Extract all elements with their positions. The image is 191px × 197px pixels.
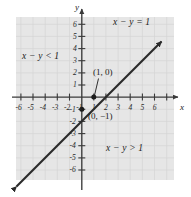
region-label-greater-than: x − y > 1 — [106, 144, 143, 154]
x-tick-label: -6 — [16, 104, 22, 112]
point-1-0 — [91, 95, 96, 100]
y-axis-label: y — [75, 3, 79, 12]
x-tick-label: 5 — [141, 104, 145, 112]
y-tick-label: 4 — [73, 45, 77, 53]
y-tick-label: 3 — [73, 57, 77, 65]
y-tick-label: -5 — [70, 154, 76, 162]
y-tick-label: 1 — [73, 81, 77, 89]
region-label-less-than: x − y < 1 — [22, 52, 59, 62]
boundary-equation-label: x − y = 1 — [113, 18, 150, 28]
x-tick-label: 3 — [116, 104, 120, 112]
x-tick-label: -4 — [40, 104, 46, 112]
x-axis-label: x — [180, 103, 184, 112]
point-label-0-neg1: (0, −1) — [88, 112, 113, 121]
graph-canvas — [0, 0, 191, 197]
x-tick-label: -3 — [52, 104, 58, 112]
x-tick-label: 4 — [128, 104, 132, 112]
x-tick-label: -5 — [28, 104, 34, 112]
y-tick-label: 5 — [73, 33, 77, 41]
y-tick-label: -4 — [70, 142, 76, 150]
x-tick-label: -1 — [76, 104, 82, 112]
y-tick-label: 2 — [73, 69, 77, 77]
point-label-1-0: (1, 0) — [93, 68, 113, 77]
y-tick-label: -2 — [70, 118, 76, 126]
y-tick-label: -3 — [70, 130, 76, 138]
y-tick-label: -6 — [70, 166, 76, 174]
graph-figure: x y -6 -5 -4 -3 -2 -1 1 2 3 4 5 6 6 5 4 … — [0, 0, 191, 197]
y-tick-label: 6 — [73, 21, 77, 29]
x-tick-label: 6 — [153, 104, 157, 112]
y-tick-label: -1 — [70, 106, 76, 114]
